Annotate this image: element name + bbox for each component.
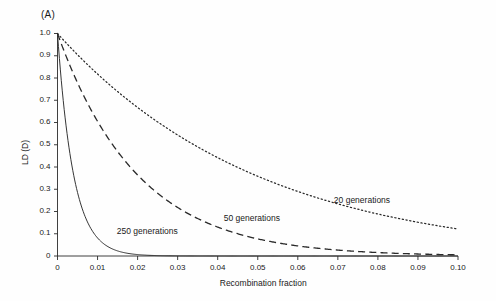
y-tick-label: 0 bbox=[18, 251, 51, 260]
y-tick-label: 0.2 bbox=[18, 206, 51, 215]
x-tick-label: 0.05 bbox=[238, 263, 278, 272]
x-tick-label: 0.02 bbox=[118, 263, 158, 272]
y-tick-label: 0.1 bbox=[18, 228, 51, 237]
y-tick-label: 0.6 bbox=[18, 117, 51, 126]
series-annotation: 50 generations bbox=[224, 213, 280, 223]
x-tick-label: 0.07 bbox=[318, 263, 358, 272]
series-annotation: 250 generations bbox=[117, 226, 178, 236]
plot-canvas bbox=[0, 0, 496, 301]
x-tick-label: 0 bbox=[38, 263, 78, 272]
x-tick-label: 0.06 bbox=[278, 263, 318, 272]
y-tick-label: 0.9 bbox=[18, 50, 51, 59]
chart-figure: (A) LD (D) Recombination fraction 00.10.… bbox=[0, 0, 496, 301]
x-tick-label: 0.08 bbox=[358, 263, 398, 272]
y-tick-label: 0.4 bbox=[18, 162, 51, 171]
x-tick-label: 0.01 bbox=[78, 263, 118, 272]
y-tick-label: 0.5 bbox=[18, 139, 51, 148]
y-tick-label: 1.0 bbox=[18, 28, 51, 37]
y-tick-label: 0.7 bbox=[18, 95, 51, 104]
series-line-20-generations bbox=[58, 34, 459, 229]
x-tick-label: 0.03 bbox=[158, 263, 198, 272]
x-tick-label: 0.09 bbox=[398, 263, 438, 272]
y-tick-label: 0.8 bbox=[18, 73, 51, 82]
x-tick-label: 0.10 bbox=[438, 263, 478, 272]
y-tick-label: 0.3 bbox=[18, 184, 51, 193]
series-annotation: 20 generations bbox=[334, 195, 390, 205]
x-tick-label: 0.04 bbox=[198, 263, 238, 272]
